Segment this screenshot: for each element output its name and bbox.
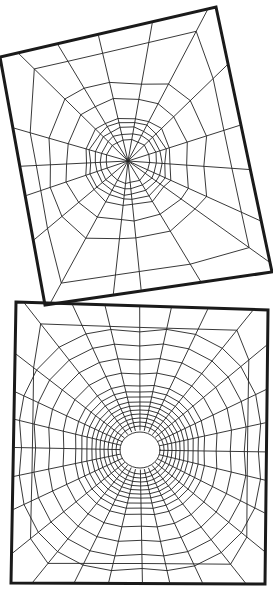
hub-opening [120,432,160,468]
radial-thread [50,161,128,303]
radial-thread [128,125,240,161]
spiral-ring [116,426,164,474]
radial-thread [14,459,122,510]
top-web [0,7,272,305]
radial-thread [34,161,128,240]
spider-web-figure [0,0,273,594]
radial-thread [128,65,227,161]
radial-thread [158,390,266,442]
radial-thread [128,161,269,262]
bottom-web [11,302,268,584]
radial-thread [21,161,128,166]
radial-thread [25,303,128,434]
radial-thread [128,10,207,161]
web-frame [0,7,272,305]
